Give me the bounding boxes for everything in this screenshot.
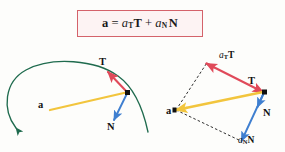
right-label-N: N xyxy=(263,108,271,119)
right-vector-a xyxy=(176,92,263,110)
left-particle-point xyxy=(125,90,130,95)
left-label-a: a xyxy=(38,100,43,111)
right-label-T: T xyxy=(248,76,255,87)
figure-vector-layer xyxy=(0,0,285,152)
left-vector-a xyxy=(50,93,126,111)
right-vector-aTT-origin-marker xyxy=(207,64,215,68)
acceleration-decomposition-figure: a=aTT+aNN xyxy=(0,0,285,152)
trajectory-curve xyxy=(7,61,148,132)
right-label-aNN: aNN xyxy=(238,136,254,146)
right-label-aTT-vector: T xyxy=(228,50,234,60)
right-tip-point xyxy=(262,90,267,95)
left-label-N: N xyxy=(107,122,115,133)
dashed-side-upper-left xyxy=(176,64,207,111)
right-vector-N-unit xyxy=(258,93,265,108)
left-panel-group xyxy=(7,61,148,132)
right-label-a: a xyxy=(166,106,171,117)
left-vector-N xyxy=(114,93,128,121)
left-label-T: T xyxy=(99,57,106,68)
right-label-aNN-vector: N xyxy=(247,135,254,145)
right-origin-point xyxy=(173,108,177,113)
dashed-side-lower-left xyxy=(176,110,241,141)
right-label-aTT: aTT xyxy=(219,51,234,61)
